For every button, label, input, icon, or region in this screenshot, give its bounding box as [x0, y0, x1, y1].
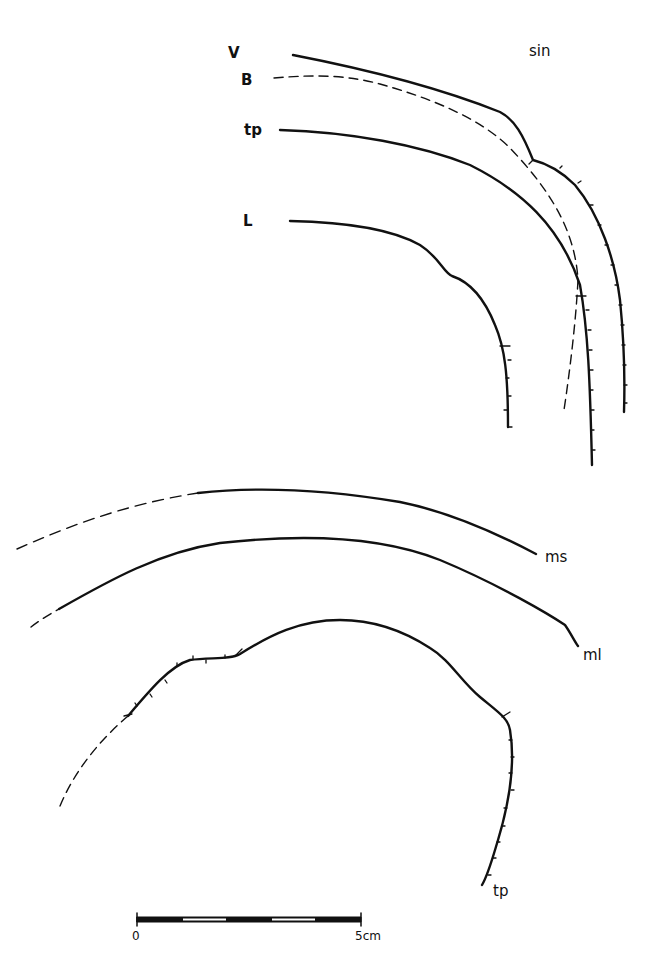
curve-tp-lower [128, 620, 512, 885]
scale-bar [137, 913, 361, 926]
curve-l [290, 221, 508, 427]
diagram-canvas [0, 0, 652, 967]
label-l: L [243, 214, 253, 229]
label-b: B [241, 73, 252, 88]
curve-ml [59, 538, 578, 646]
curve-tp-upper [280, 130, 592, 465]
label-sin: sin [529, 44, 551, 59]
label-v: V [228, 46, 240, 61]
label-ms: ms [545, 550, 567, 565]
curve-ml-dashed [31, 609, 59, 627]
curve-tp-lower-dashed [60, 716, 128, 806]
curve-b-dashed [274, 76, 578, 410]
scale-start-label: 0 [132, 930, 140, 942]
label-ml: ml [583, 648, 602, 663]
curve-ms [198, 490, 536, 554]
curve-v [293, 55, 624, 412]
ticks-tp-lower [124, 649, 514, 875]
label-tp-lower: tp [493, 884, 508, 899]
curve-ms-dashed [17, 493, 198, 549]
label-tp-upper: tp [244, 123, 262, 138]
scale-end-label: 5cm [355, 930, 381, 942]
